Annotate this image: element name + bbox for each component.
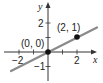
tick-label-y-2: 2: [38, 18, 44, 29]
point-origin: [45, 49, 51, 55]
tick-label-x-neg2: −2: [12, 55, 24, 66]
y-axis: [46, 2, 51, 81]
graph-line: [11, 28, 97, 72]
y-axis-label: y: [37, 1, 43, 12]
graph: y x −2 2 2 −1 (0, 0) (2, 1): [0, 0, 103, 83]
y-axis-arrow-icon: [46, 2, 51, 8]
point-label-2-1: (2, 1): [57, 22, 80, 33]
point-label-origin: (0, 0): [21, 38, 44, 49]
x-axis-label: x: [92, 54, 98, 65]
point-2-1: [74, 34, 80, 40]
tick-label-x-2: 2: [74, 55, 80, 66]
tick-label-y-neg1: −1: [34, 61, 46, 72]
